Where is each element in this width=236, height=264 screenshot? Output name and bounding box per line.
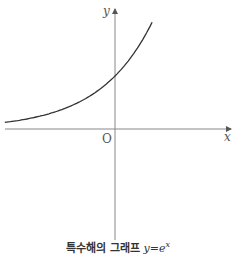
origin-label: O [102,132,112,146]
y-axis-label: y [102,4,110,18]
exponential-graph: y x O [0,0,236,264]
x-axis-label: x [224,130,231,144]
caption-equation: y=ex [144,242,170,255]
exponential-curve [5,22,152,122]
caption-text: 특수해의 그래프 [66,242,140,255]
equation-equals: = [150,242,159,255]
figure-caption: 특수해의 그래프 y=ex [0,239,236,255]
equation-exponent: x [166,240,171,249]
